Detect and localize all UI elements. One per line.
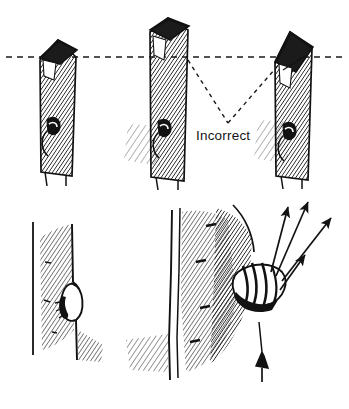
top-row-group: Incorrect: [6, 18, 344, 190]
shoot-panel-ground-shadow: [126, 334, 168, 372]
pruning-diagram-figure: Incorrect: [0, 0, 349, 409]
incorrect-label: Incorrect: [196, 128, 250, 143]
diagram-canvas: Incorrect: [0, 0, 349, 409]
stem-1-group: [40, 40, 77, 186]
